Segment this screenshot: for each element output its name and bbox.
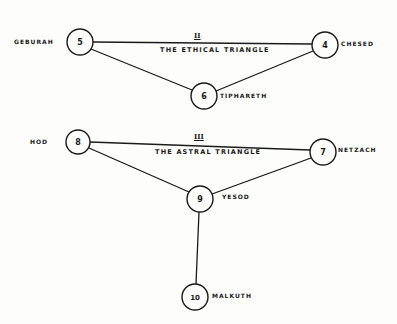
edge-geburah-chesed (93, 42, 312, 44)
node-label-malkuth: Malkuth (212, 292, 252, 299)
edge-geburah-tiphareth (91, 49, 192, 90)
triangle-numeral-ethical: II (194, 31, 201, 40)
triangle-title-ethical: The Ethical Triangle (160, 46, 270, 54)
node-label-chesed: Chesed (341, 40, 374, 47)
node-number-hod: 8 (75, 138, 81, 147)
triangle-numeral-astral: III (194, 132, 204, 141)
edge-chesed-tiphareth (216, 51, 313, 91)
nodes (66, 29, 338, 310)
node-label-netzach: Netzach (338, 146, 377, 153)
triangle-title-astral: The Astral Triangle (155, 148, 261, 156)
node-number-geburah: 5 (77, 38, 83, 47)
node-number-yesod: 9 (197, 195, 203, 204)
node-number-tiphareth: 6 (201, 92, 207, 101)
node-label-tiphareth: Tiphareth (220, 92, 267, 99)
node-label-hod: Hod (30, 138, 48, 145)
node-number-chesed: 4 (322, 41, 328, 50)
node-number-netzach: 7 (320, 148, 326, 157)
node-label-yesod: Yesod (222, 193, 250, 200)
node-label-geburah: Geburah (14, 38, 54, 45)
edges (89, 42, 313, 284)
edge-yesod-malkuth (196, 212, 199, 284)
sephiroth-triangles-diagram: 5 4 6 8 7 9 10 Geburah Chesed Tiphareth … (0, 0, 397, 324)
node-number-malkuth: 10 (190, 294, 200, 302)
edge-netzach-yesod (212, 158, 311, 194)
node-numbers: 5 4 6 8 7 9 10 (75, 38, 328, 302)
